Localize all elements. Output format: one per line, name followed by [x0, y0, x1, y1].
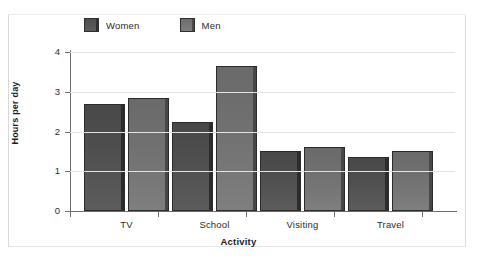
legend-item-men: Men — [180, 18, 221, 32]
figure-border-left — [8, 14, 9, 246]
x-axis-tick-1 — [158, 211, 159, 217]
bar-travel-men — [392, 151, 433, 211]
y-tick-4 — [65, 52, 70, 53]
legend-item-women: Women — [84, 18, 140, 32]
legend-label-men: Men — [202, 20, 221, 31]
x-axis-label-travel: Travel — [340, 219, 441, 230]
x-axis-tick-3 — [334, 211, 335, 217]
gridline-3 — [70, 92, 455, 93]
legend-swatch-women-icon — [84, 18, 99, 32]
chart-legend: Women Men — [84, 18, 221, 32]
y-tick-label-0: 0 — [38, 205, 60, 216]
y-tick-label-3: 3 — [38, 86, 60, 97]
bar-chart-figure: Women Men Hours per day Activity 01234TV… — [0, 0, 477, 260]
legend-label-women: Women — [106, 20, 140, 31]
gridline-1 — [70, 171, 455, 172]
bar-tv-men — [128, 98, 169, 211]
y-tick-1 — [65, 171, 70, 172]
bar-school-men — [216, 66, 257, 211]
bar-school-women — [172, 122, 213, 211]
y-tick-label-1: 1 — [38, 165, 60, 176]
x-axis-tick-0 — [70, 211, 71, 217]
x-axis-tick-2 — [246, 211, 247, 217]
y-tick-label-2: 2 — [38, 126, 60, 137]
x-axis-tick-4 — [422, 211, 423, 217]
bar-visiting-men — [304, 147, 345, 211]
x-axis-label-visiting: Visiting — [252, 219, 353, 230]
legend-swatch-men-icon — [180, 18, 195, 32]
bar-tv-women — [84, 104, 125, 211]
x-axis-title: Activity — [0, 236, 477, 247]
x-axis-line — [70, 211, 457, 212]
y-tick-label-4: 4 — [38, 46, 60, 57]
y-axis-title: Hours per day — [10, 67, 20, 159]
x-axis-label-school: School — [164, 219, 265, 230]
figure-border-right — [465, 14, 466, 246]
figure-border-top — [8, 14, 466, 15]
y-tick-2 — [65, 132, 70, 133]
gridline-2 — [70, 132, 455, 133]
y-tick-3 — [65, 92, 70, 93]
bar-visiting-women — [260, 151, 301, 211]
gridline-4 — [70, 52, 455, 53]
bar-travel-women — [348, 157, 389, 211]
x-axis-label-tv: TV — [76, 219, 177, 230]
